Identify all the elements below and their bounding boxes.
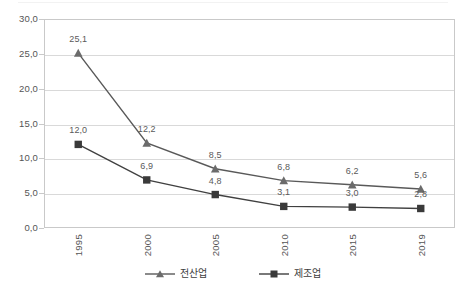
data-point-label: 5,6 bbox=[414, 170, 427, 180]
x-axis-tick-label: 2005 bbox=[210, 234, 221, 256]
y-axis-tick-label: 5,0 bbox=[0, 187, 42, 198]
line-chart: 0,05,010,015,020,025,030,0 1995200020052… bbox=[0, 0, 466, 288]
legend-label-manufacturing: 제조업 bbox=[294, 265, 321, 280]
y-axis-tick-label: 25,0 bbox=[0, 48, 42, 59]
square-marker-icon bbox=[259, 266, 289, 278]
data-point-label: 4,8 bbox=[209, 176, 222, 186]
data-point-label: 8,5 bbox=[209, 150, 222, 160]
triangle-marker-icon bbox=[145, 266, 175, 278]
x-axis-tick-label: 1995 bbox=[73, 234, 84, 256]
y-axis-tick-label: 10,0 bbox=[0, 152, 42, 163]
y-axis-tick-label: 0,0 bbox=[0, 222, 42, 233]
x-axis-tick-label: 2015 bbox=[347, 234, 358, 256]
y-axis-labels: 0,05,010,015,020,025,030,0 bbox=[0, 0, 38, 288]
top-divider-rule bbox=[18, 2, 448, 3]
data-point-label: 2,8 bbox=[414, 189, 427, 199]
x-axis-tick-label: 2010 bbox=[279, 234, 290, 256]
y-axis-tick bbox=[39, 124, 44, 125]
data-point-label: 6,2 bbox=[346, 166, 359, 176]
data-point-label: 12,2 bbox=[138, 124, 156, 134]
gridline bbox=[45, 194, 454, 195]
data-point-label: 6,8 bbox=[277, 162, 290, 172]
data-point-label: 12,0 bbox=[69, 125, 87, 135]
x-axis-tick-label: 2019 bbox=[416, 234, 427, 256]
y-axis-tick-label: 15,0 bbox=[0, 118, 42, 129]
data-point-label: 3,0 bbox=[346, 188, 359, 198]
plot-area bbox=[44, 19, 455, 228]
gridline bbox=[45, 55, 454, 56]
y-axis-tick bbox=[39, 19, 44, 20]
y-axis-tick-label: 30,0 bbox=[0, 13, 42, 24]
y-axis-tick bbox=[39, 193, 44, 194]
gridline bbox=[45, 159, 454, 160]
gridline bbox=[45, 125, 454, 126]
legend-label-all-industry: 전산업 bbox=[180, 265, 207, 280]
legend-item-all-industry[interactable]: 전산업 bbox=[145, 265, 207, 280]
x-axis-tick-label: 2000 bbox=[142, 234, 153, 256]
y-axis-tick bbox=[39, 54, 44, 55]
data-point-label: 3,1 bbox=[277, 187, 290, 197]
chart-legend: 전산업 제조업 bbox=[0, 262, 466, 282]
data-point-label: 6,9 bbox=[140, 161, 153, 171]
legend-item-manufacturing[interactable]: 제조업 bbox=[259, 265, 321, 280]
y-axis-tick-label: 20,0 bbox=[0, 83, 42, 94]
gridline bbox=[45, 90, 454, 91]
data-point-label: 25,1 bbox=[69, 34, 87, 44]
y-axis-tick bbox=[39, 158, 44, 159]
y-axis-tick bbox=[39, 228, 44, 229]
y-axis-tick bbox=[39, 89, 44, 90]
